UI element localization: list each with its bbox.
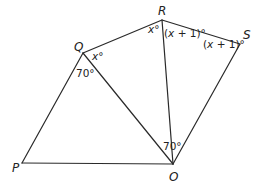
edge-PQ xyxy=(22,53,83,163)
vertex-label-Q: Q xyxy=(74,40,83,54)
edge-OP xyxy=(22,163,173,164)
angle-label-S-x-plus-1: (x + 1)° xyxy=(203,38,245,50)
angle-label-R-x-plus-1: (x + 1)° xyxy=(164,27,206,39)
edge-SO xyxy=(173,44,240,164)
vertex-labels: R S Q P O xyxy=(12,4,251,184)
geometry-diagram: R S Q P O x° (x + 1)° (x + 1)° x° 70° 70… xyxy=(0,0,257,186)
angle-label-Q-x: x° xyxy=(91,50,103,62)
angle-label-Q-70: 70° xyxy=(76,67,95,79)
angle-labels: x° (x + 1)° (x + 1)° x° 70° 70° xyxy=(76,23,245,152)
angle-label-O-70: 70° xyxy=(163,140,182,152)
edge-QO xyxy=(83,53,173,164)
vertex-label-O: O xyxy=(169,170,178,184)
angle-label-R-x: x° xyxy=(147,23,159,35)
vertex-label-R: R xyxy=(158,4,166,18)
vertex-label-P: P xyxy=(12,161,20,175)
